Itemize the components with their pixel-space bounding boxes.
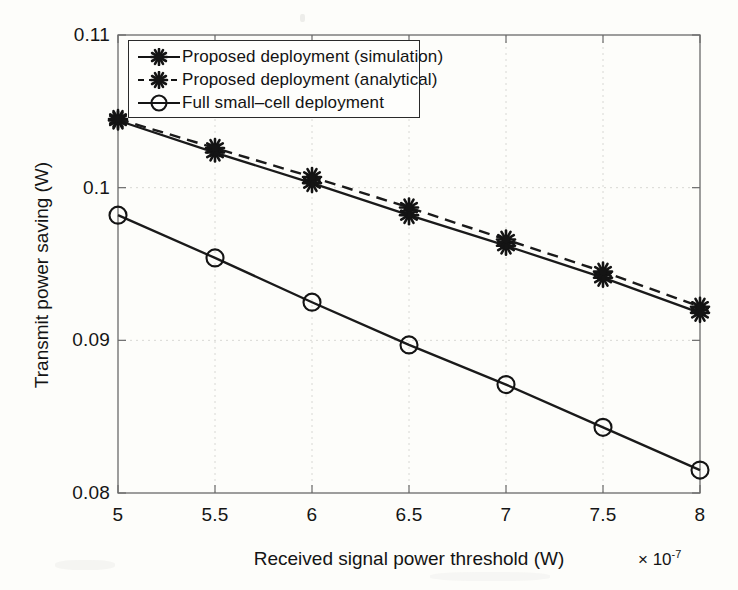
circle-marker-icon [136, 94, 182, 112]
legend-box: Proposed deployment (simulation)Proposed… [128, 40, 420, 118]
legend-item-label: Full small–cell deployment [182, 93, 384, 113]
x-tick-label: 8 [695, 504, 706, 526]
x-tick-label: 7 [501, 504, 512, 526]
figure-container: 0.110.10.090.08 55.566.577.58 Transmit p… [0, 0, 738, 590]
legend-item-label: Proposed deployment (analytical) [182, 70, 438, 90]
x-axis-multiplier-base: × 10 [638, 550, 672, 569]
y-tick-label: 0.11 [28, 24, 110, 46]
star-marker-icon [136, 48, 182, 66]
legend-item[interactable]: Proposed deployment (simulation) [129, 45, 419, 68]
legend-item-label: Proposed deployment (simulation) [182, 47, 443, 67]
x-tick-label: 6.5 [395, 504, 422, 526]
x-axis-label: Received signal power threshold (W) [118, 548, 700, 570]
star-marker-icon [136, 71, 182, 89]
legend-item[interactable]: Proposed deployment (analytical) [129, 68, 419, 91]
legend-item[interactable]: Full small–cell deployment [129, 91, 419, 114]
series-2 [109, 110, 709, 316]
x-tick-label: 6 [307, 504, 318, 526]
y-tick-label: 0.08 [28, 482, 110, 504]
x-tick-label: 5.5 [201, 504, 228, 526]
x-tick-label: 7.5 [589, 504, 616, 526]
x-axis-multiplier-exponent: -7 [672, 548, 682, 560]
y-axis-label: Transmit power saving (W) [31, 125, 53, 425]
x-tick-label: 5 [113, 504, 124, 526]
x-axis-multiplier: × 10-7 [638, 548, 681, 570]
